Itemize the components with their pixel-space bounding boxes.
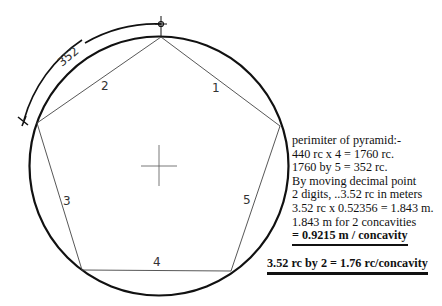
note-line: 3.52 rc x 0.52356 = 1.843 m.	[292, 202, 434, 216]
result-line: = 0.9215 m / concavity	[292, 229, 408, 246]
side-label-4: 4	[153, 255, 161, 269]
side-label-2: 2	[101, 79, 109, 93]
arc-dimension-line-upper	[85, 24, 161, 43]
note-line: 1.843 m for 2 concavities	[292, 216, 434, 230]
side-label-3: 3	[63, 194, 71, 208]
left-tick-mark	[18, 116, 28, 126]
summary-line: 3.52 rc by 2 = 1.76 rc/concavity	[267, 256, 428, 275]
pentagon	[37, 37, 280, 271]
note-line: perimiter of pyramid:-	[292, 134, 434, 148]
side-label-1: 1	[212, 81, 220, 95]
center-mark	[141, 145, 177, 186]
side-label-5: 5	[243, 193, 251, 207]
calculation-notes: perimiter of pyramid:- 440 rc x 4 = 1760…	[292, 134, 434, 246]
note-line: 2 digits, ..3.52 rc in meters	[292, 188, 434, 202]
note-line: 440 rc x 4 = 1760 rc.	[292, 148, 434, 162]
note-line: 1760 by 5 = 352 rc.	[292, 161, 434, 175]
note-line: By moving decimal point	[292, 175, 434, 189]
